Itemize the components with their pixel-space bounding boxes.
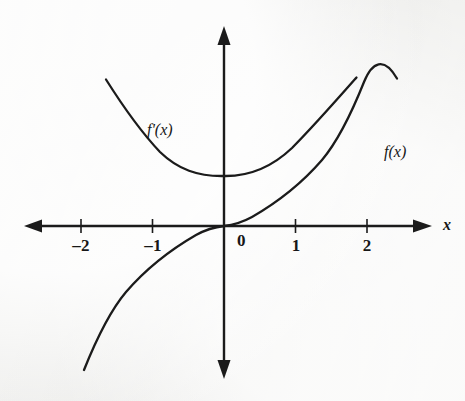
tick-label-neg1: –1	[144, 236, 161, 256]
curve-f	[84, 64, 397, 370]
tick-label-pos2: 2	[363, 236, 372, 256]
y-axis-group	[218, 26, 231, 379]
x-axis-label: x	[443, 216, 451, 234]
x-axis-right-arrow-icon	[413, 220, 432, 233]
y-axis-top-arrow-icon	[218, 26, 231, 45]
math-figure: –2 –1 1 2 0 f'(x) f(x) x	[0, 0, 465, 401]
x-axis-left-arrow-icon	[24, 220, 42, 233]
tick-label-neg2: –2	[72, 236, 89, 256]
curve-f-prime	[106, 78, 357, 177]
y-axis-bottom-arrow-icon	[218, 360, 231, 379]
curve-label-f: f(x)	[384, 143, 406, 161]
tick-label-pos1: 1	[292, 236, 301, 256]
origin-label: 0	[237, 231, 246, 251]
curve-label-f-prime: f'(x)	[147, 121, 173, 139]
plot-canvas	[0, 0, 465, 401]
